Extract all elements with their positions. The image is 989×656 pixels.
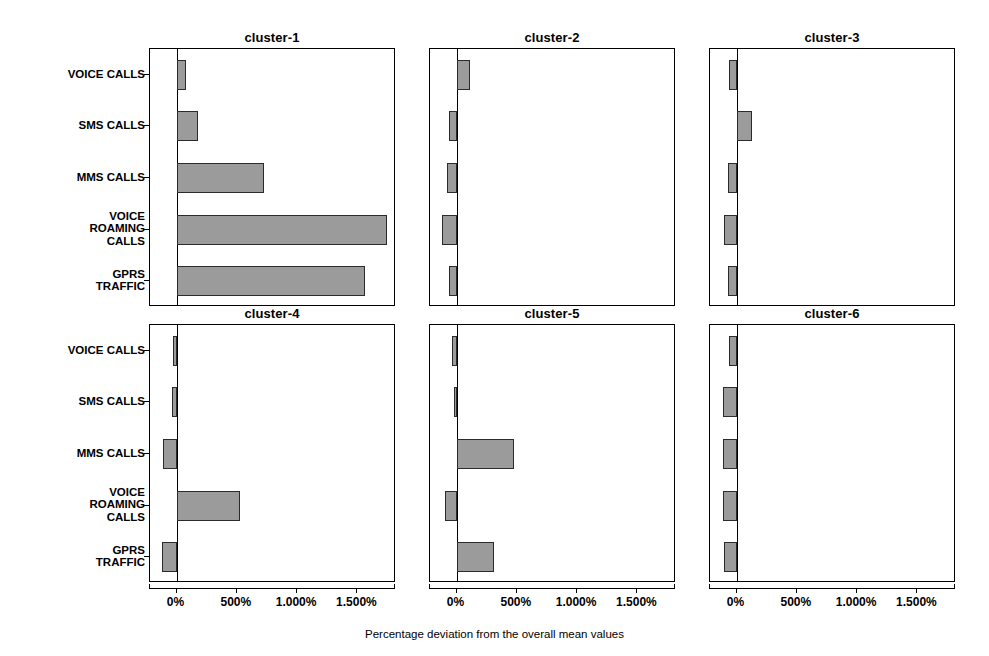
- x-axis-tick-label: 1.500%: [881, 595, 951, 609]
- category-axis-tick: [144, 74, 149, 75]
- x-axis-tick-label: 1.500%: [321, 595, 391, 609]
- category-label: MMS CALLS: [77, 171, 145, 184]
- x-axis-tick: [236, 588, 237, 593]
- bar: [457, 60, 470, 90]
- bar: [162, 542, 176, 572]
- zero-reference-line: [737, 49, 738, 305]
- panel-title-cluster-1: cluster-1: [149, 30, 395, 46]
- category-axis-tick: [144, 350, 149, 351]
- panel-cluster-1: cluster-1: [149, 30, 395, 306]
- category-label: VOICE ROAMING CALLS: [89, 210, 145, 248]
- bar: [729, 60, 736, 90]
- bar: [177, 60, 186, 90]
- category-label: GPRS TRAFFIC: [96, 544, 145, 569]
- category-axis-labels-row1: VOICE CALLSSMS CALLSMMS CALLSVOICE ROAMI…: [0, 48, 145, 306]
- category-axis-tick: [144, 229, 149, 230]
- bar: [449, 266, 456, 296]
- category-label: VOICE ROAMING CALLS: [89, 486, 145, 524]
- panel-cluster-5: cluster-5: [429, 306, 675, 582]
- x-axis-end-cap-right: [954, 584, 955, 589]
- panel-cluster-3: cluster-3: [709, 30, 955, 306]
- x-axis-tick: [456, 588, 457, 593]
- bar: [172, 387, 176, 417]
- bar: [457, 542, 494, 572]
- zero-reference-line: [737, 325, 738, 581]
- x-axis-tick: [736, 588, 737, 593]
- panel-title-cluster-6: cluster-6: [709, 306, 955, 322]
- bar: [729, 336, 737, 366]
- bar: [449, 111, 456, 141]
- category-axis-tick: [144, 453, 149, 454]
- category-label: VOICE CALLS: [68, 68, 145, 81]
- panel-cluster-6: cluster-6: [709, 306, 955, 582]
- x-axis-tick: [856, 588, 857, 593]
- zero-reference-line: [177, 325, 178, 581]
- x-axis-tick: [916, 588, 917, 593]
- category-label: GPRS TRAFFIC: [96, 268, 145, 293]
- bar: [728, 163, 736, 193]
- x-axis-tick: [356, 588, 357, 593]
- x-axis-col1: 0%500%1.000%1.500%: [149, 588, 395, 618]
- panel-cluster-4: cluster-4: [149, 306, 395, 582]
- bar: [177, 163, 264, 193]
- category-label: VOICE CALLS: [68, 344, 145, 357]
- x-axis-end-cap-left: [709, 584, 710, 589]
- x-axis-line: [149, 588, 395, 589]
- panel-title-cluster-3: cluster-3: [709, 30, 955, 46]
- plot-area-cluster-5: [429, 324, 675, 582]
- category-axis-tick: [144, 401, 149, 402]
- category-label: SMS CALLS: [79, 119, 145, 132]
- category-label: MMS CALLS: [77, 447, 145, 460]
- x-axis-tick: [796, 588, 797, 593]
- x-axis-line: [709, 588, 955, 589]
- bar: [177, 266, 366, 296]
- bar: [728, 266, 736, 296]
- x-axis-tick: [176, 588, 177, 593]
- panel-cluster-2: cluster-2: [429, 30, 675, 306]
- plot-area-cluster-6: [709, 324, 955, 582]
- category-axis-labels-row2: VOICE CALLSSMS CALLSMMS CALLSVOICE ROAMI…: [0, 324, 145, 582]
- plot-area-cluster-1: [149, 48, 395, 306]
- panel-title-cluster-5: cluster-5: [429, 306, 675, 322]
- bar: [457, 439, 515, 469]
- plot-area-cluster-4: [149, 324, 395, 582]
- bar: [445, 491, 456, 521]
- x-axis-tick: [516, 588, 517, 593]
- bar: [723, 439, 737, 469]
- x-axis-end-cap-right: [674, 584, 675, 589]
- bar: [723, 387, 736, 417]
- bar: [452, 336, 456, 366]
- bar: [173, 336, 177, 366]
- plot-area-cluster-3: [709, 48, 955, 306]
- category-axis-tick: [144, 505, 149, 506]
- x-axis-end-cap-right: [394, 584, 395, 589]
- category-label: SMS CALLS: [79, 395, 145, 408]
- x-axis-tick: [576, 588, 577, 593]
- bar: [177, 491, 241, 521]
- bar: [177, 215, 387, 245]
- category-axis-tick: [144, 280, 149, 281]
- x-axis-col3: 0%500%1.000%1.500%: [709, 588, 955, 618]
- bar: [737, 111, 753, 141]
- x-axis-col2: 0%500%1.000%1.500%: [429, 588, 675, 618]
- x-axis-end-cap-left: [149, 584, 150, 589]
- bar: [447, 163, 456, 193]
- bar: [723, 491, 736, 521]
- bar: [163, 439, 176, 469]
- bar: [724, 215, 737, 245]
- category-axis-tick: [144, 125, 149, 126]
- x-axis-tick: [296, 588, 297, 593]
- bar: [177, 111, 199, 141]
- x-axis-tick-label: 1.500%: [601, 595, 671, 609]
- bar: [442, 215, 456, 245]
- x-axis-tick: [636, 588, 637, 593]
- bar: [454, 387, 457, 417]
- plot-area-cluster-2: [429, 48, 675, 306]
- figure-caption: Percentage deviation from the overall me…: [0, 628, 989, 640]
- figure-panel-grid: VOICE CALLSSMS CALLSMMS CALLSVOICE ROAMI…: [0, 0, 989, 656]
- bar: [724, 542, 737, 572]
- category-axis-tick: [144, 556, 149, 557]
- panel-title-cluster-2: cluster-2: [429, 30, 675, 46]
- x-axis-line: [429, 588, 675, 589]
- panel-title-cluster-4: cluster-4: [149, 306, 395, 322]
